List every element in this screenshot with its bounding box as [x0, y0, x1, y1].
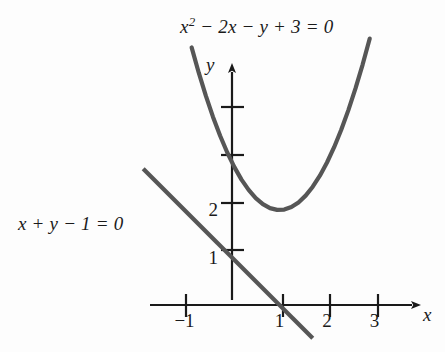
- line-equation-label: x + y − 1 = 0: [18, 213, 123, 235]
- y-tick-label-2: 2: [192, 199, 218, 221]
- line-curve: [143, 169, 313, 339]
- x-axis-label: x: [423, 304, 431, 326]
- x-tick-label-3: 3: [370, 310, 380, 332]
- y-tick-label-1: 1: [192, 247, 218, 269]
- y-axis-label: y: [206, 54, 214, 76]
- x-tick-label-2: 2: [322, 310, 332, 332]
- plot-canvas: [0, 0, 445, 352]
- x-tick-label-neg1: −1: [174, 310, 194, 332]
- parabola-equation-label: x2 − 2x − y + 3 = 0: [180, 16, 333, 38]
- x-tick-label-1: 1: [275, 310, 285, 332]
- parabola-equation-base: x: [180, 16, 189, 37]
- axes: [150, 72, 412, 305]
- parabola-curve: [192, 39, 370, 210]
- parabola-equation-rest: − 2x − y + 3 = 0: [195, 16, 333, 37]
- graph-figure: x2 − 2x − y + 3 = 0 x + y − 1 = 0 x y −1…: [0, 0, 445, 352]
